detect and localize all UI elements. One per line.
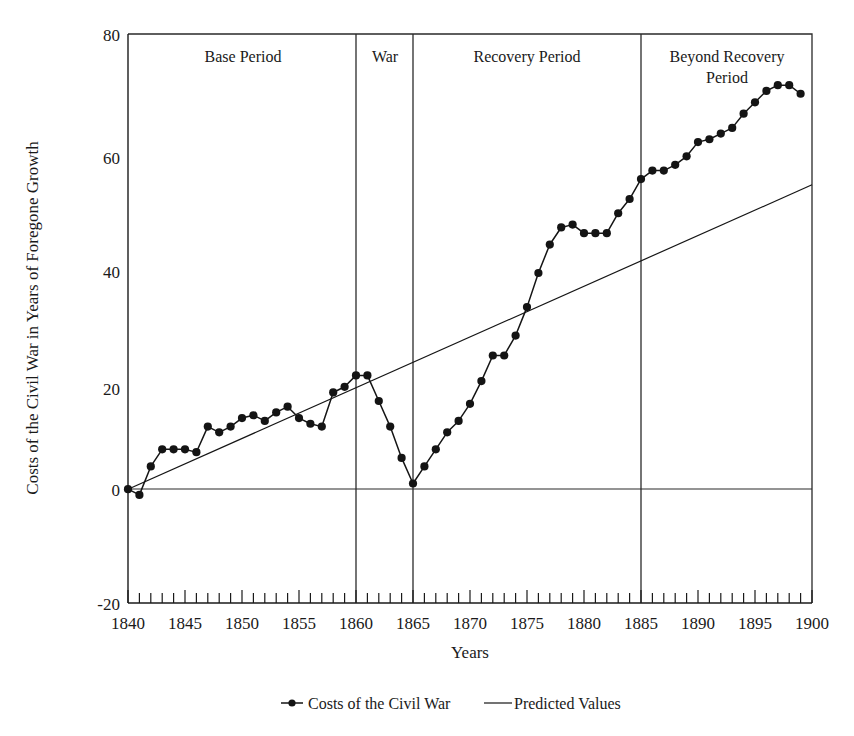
data-point-marker [306, 420, 314, 428]
data-point-marker [124, 485, 132, 493]
data-point-marker [329, 388, 337, 396]
x-tick-label: 1865 [396, 614, 430, 633]
x-tick-label: 1885 [624, 614, 658, 633]
data-point-marker [694, 138, 702, 146]
data-point-marker [341, 383, 349, 391]
band-label-base: Base Period [205, 48, 282, 65]
data-point-marker [409, 479, 417, 487]
x-tick-label: 1895 [738, 614, 772, 633]
legend-item-predicted[interactable]: Predicted Values [484, 695, 621, 712]
x-tick-label: 1875 [510, 614, 544, 633]
legend-marker-icon [288, 699, 295, 706]
data-point-marker [591, 229, 599, 237]
legend-label-predicted: Predicted Values [514, 695, 621, 712]
data-point-marker [398, 454, 406, 462]
data-point-marker [295, 414, 303, 422]
data-point-marker [455, 417, 463, 425]
data-point-marker [215, 428, 223, 436]
data-point-marker [500, 351, 508, 359]
data-point-marker [671, 161, 679, 169]
data-point-marker [774, 81, 782, 89]
data-point-marker [158, 445, 166, 453]
data-point-marker [637, 175, 645, 183]
data-point-marker [284, 403, 292, 411]
data-point-marker [580, 229, 588, 237]
data-point-marker [705, 135, 713, 143]
data-point-marker [192, 448, 200, 456]
data-point-marker [683, 152, 691, 160]
x-tick-label: 1900 [795, 614, 829, 633]
data-point-marker [227, 423, 235, 431]
data-point-marker [204, 423, 212, 431]
data-point-marker [511, 331, 519, 339]
x-tick-label: 1880 [567, 614, 601, 633]
x-tick-label: 1855 [282, 614, 316, 633]
period-dividers [356, 34, 641, 603]
y-tick-label: 20 [103, 380, 120, 399]
data-point-marker [762, 87, 770, 95]
data-point-marker [352, 371, 360, 379]
data-point-marker [443, 428, 451, 436]
y-tick-label: -20 [97, 595, 120, 614]
data-point-marker [181, 445, 189, 453]
data-point-marker [785, 81, 793, 89]
data-point-marker [386, 423, 394, 431]
x-tick-label: 1845 [168, 614, 202, 633]
x-tick-label: 1890 [681, 614, 715, 633]
legend-item-costs[interactable]: Costs of the Civil War [281, 695, 451, 712]
x-tick-label: 1860 [339, 614, 373, 633]
data-point-marker [534, 269, 542, 277]
data-point-marker [603, 229, 611, 237]
data-point-marker [569, 221, 577, 229]
data-point-marker [717, 129, 725, 137]
data-point-marker [614, 209, 622, 217]
x-axis-title: Years [451, 643, 489, 662]
costs-series-line [128, 85, 801, 495]
data-point-marker [375, 397, 383, 405]
plot-frame [128, 34, 812, 603]
data-point-marker [489, 351, 497, 359]
y-axis-ticks: 80 60 40 20 0 -20 [97, 26, 120, 614]
data-point-marker [477, 377, 485, 385]
data-point-marker [751, 98, 759, 106]
predicted-values-line [128, 185, 812, 489]
x-axis-tick-labels: 1840184518501855186018651870187518801885… [111, 614, 829, 633]
data-point-marker [557, 223, 565, 231]
legend-label-costs: Costs of the Civil War [308, 695, 451, 712]
data-point-marker [740, 110, 748, 118]
data-point-marker [170, 445, 178, 453]
band-label-beyond-line2: Period [706, 69, 748, 86]
band-label-recovery: Recovery Period [473, 48, 580, 66]
chart-svg: 80 60 40 20 0 -20 1840184518501855186018… [0, 0, 854, 736]
data-point-marker [135, 491, 143, 499]
data-point-marker [318, 423, 326, 431]
data-point-marker [238, 414, 246, 422]
data-point-marker [660, 166, 668, 174]
data-point-marker [249, 411, 257, 419]
y-tick-label: 60 [103, 149, 120, 168]
x-tick-label: 1850 [225, 614, 259, 633]
data-point-marker [261, 417, 269, 425]
costs-series-markers [124, 81, 805, 499]
band-labels: Base Period War Recovery Period Beyond R… [205, 48, 785, 86]
y-tick-label: 0 [112, 481, 121, 500]
data-point-marker [272, 408, 280, 416]
data-point-marker [147, 462, 155, 470]
data-point-marker [728, 124, 736, 132]
band-label-war: War [372, 48, 399, 65]
data-point-marker [797, 90, 805, 98]
data-point-marker [546, 240, 554, 248]
data-point-marker [626, 195, 634, 203]
y-tick-label: 80 [103, 26, 120, 45]
x-axis-ticks [128, 590, 812, 603]
x-tick-label: 1840 [111, 614, 145, 633]
data-point-marker [420, 462, 428, 470]
data-point-marker [432, 445, 440, 453]
chart-legend: Costs of the Civil War Predicted Values [281, 695, 621, 712]
data-point-marker [466, 400, 474, 408]
data-point-marker [363, 371, 371, 379]
chart-figure: 80 60 40 20 0 -20 1840184518501855186018… [0, 0, 854, 736]
data-point-marker [648, 166, 656, 174]
y-tick-label: 40 [103, 263, 120, 282]
y-axis-title: Costs of the Civil War in Years of Foreg… [23, 141, 42, 495]
